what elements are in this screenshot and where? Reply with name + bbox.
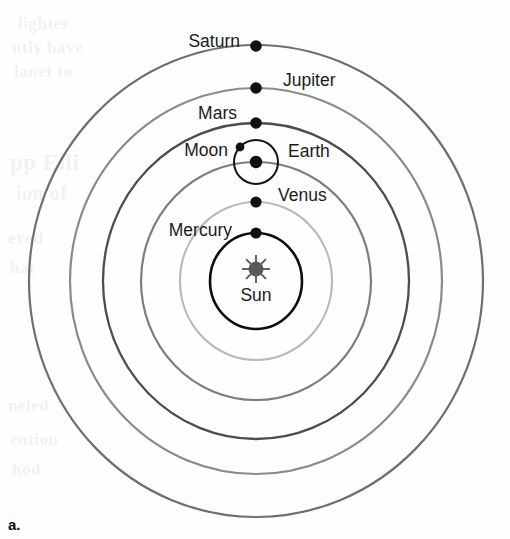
sun-ray: [246, 259, 251, 264]
label-jupiter: Jupiter: [283, 72, 336, 90]
body-dot-venus: [250, 196, 261, 207]
body-dot-earth: [250, 156, 262, 168]
body-dot-jupiter: [250, 82, 262, 94]
label-saturn: Saturn: [188, 33, 240, 51]
sun-label: Sun: [240, 287, 271, 305]
label-venus: Venus: [278, 187, 327, 205]
body-dot-mercury: [250, 227, 261, 238]
label-mercury: Mercury: [169, 222, 232, 240]
orbit-diagram-figure: lighterntly havelanet topp Elliion ofere…: [0, 0, 510, 539]
solar-system-diagram: [0, 0, 510, 539]
label-earth: Earth: [288, 143, 330, 161]
sun-ray: [261, 274, 266, 279]
sun-ray: [246, 274, 251, 279]
body-dot-saturn: [250, 40, 262, 52]
body-dot-mars: [250, 117, 262, 129]
sun-ray: [261, 259, 266, 264]
label-mars: Mars: [198, 105, 237, 123]
sun-icon-group: [242, 255, 270, 283]
panel-letter: a.: [8, 516, 21, 533]
body-dot-moon: [236, 143, 245, 152]
label-moon: Moon: [184, 142, 228, 160]
